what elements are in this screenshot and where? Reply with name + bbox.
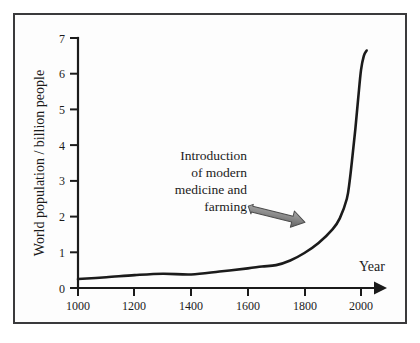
annotation-line-4: farming [204, 199, 247, 214]
y-tick-label-2: 2 [59, 210, 65, 224]
y-tick-label-3: 3 [59, 174, 65, 188]
y-tick-label-4: 4 [59, 139, 65, 153]
annotation-arrow-icon [246, 200, 307, 231]
x-tick-label-1800: 1800 [293, 299, 317, 313]
y-axis-tick-labels: 7 6 5 4 3 2 1 0 [59, 32, 65, 296]
y-tick-label-6: 6 [59, 67, 65, 81]
annotation-line-2: of modern [191, 165, 247, 180]
x-tick-label-1400: 1400 [179, 299, 203, 313]
chart-plot-area: 7 6 5 4 3 2 1 0 World population / billi… [0, 0, 420, 343]
x-tick-label-1000: 1000 [66, 299, 90, 313]
annotation-line-1: Introduction [180, 148, 247, 163]
y-tick-label-0: 0 [59, 282, 65, 296]
x-tick-label-1200: 1200 [122, 299, 146, 313]
x-tick-label-1600: 1600 [236, 299, 260, 313]
x-tick-label-2000: 2000 [349, 299, 373, 313]
y-axis-ticks [70, 38, 78, 288]
x-axis-ticks [78, 288, 361, 296]
y-tick-label-1: 1 [59, 246, 65, 260]
introduction-annotation: Introduction of modern medicine and farm… [175, 148, 248, 214]
chart-figure: 7 6 5 4 3 2 1 0 World population / billi… [0, 0, 420, 343]
x-axis-tick-labels: 1000 1200 1400 1600 1800 2000 [66, 299, 373, 313]
y-tick-label-5: 5 [59, 103, 65, 117]
x-axis-title: Year [359, 259, 385, 274]
y-axis-title: World population / billion people [32, 70, 47, 256]
y-tick-label-7: 7 [59, 32, 65, 46]
annotation-line-3: medicine and [175, 182, 248, 197]
